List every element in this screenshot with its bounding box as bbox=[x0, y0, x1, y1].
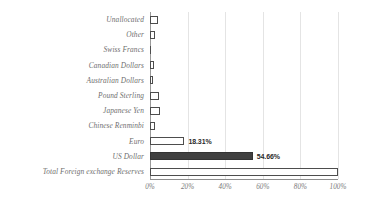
x-tick-label: 60% bbox=[256, 183, 269, 191]
horizontal-bar-chart: UnallocatedOtherSwiss FrancsCanadian Dol… bbox=[0, 0, 365, 222]
category-label: Other bbox=[0, 30, 144, 39]
bar bbox=[150, 92, 159, 100]
bar bbox=[150, 137, 184, 145]
bar-row: Pound Sterling bbox=[0, 88, 365, 103]
bar-container bbox=[150, 164, 338, 179]
bar-container: 54.66% bbox=[150, 149, 280, 164]
category-label: US Dollar bbox=[0, 152, 144, 161]
bar-container bbox=[150, 58, 154, 73]
bar-container: 18.31% bbox=[150, 134, 212, 149]
bar-row: Japanese Yen bbox=[0, 103, 365, 118]
bar-row: US Dollar54.66% bbox=[0, 149, 365, 164]
bar-container bbox=[150, 118, 155, 133]
x-tick-label: 80% bbox=[294, 183, 307, 191]
bar-row: Unallocated bbox=[0, 12, 365, 27]
x-tick-label: 0% bbox=[145, 183, 155, 191]
bar-container bbox=[150, 27, 155, 42]
bar-value-label: 18.31% bbox=[188, 138, 211, 145]
bar-container bbox=[150, 73, 153, 88]
category-label: Swiss Francs bbox=[0, 45, 144, 54]
bar-row: Other bbox=[0, 27, 365, 42]
category-label: Australian Dollars bbox=[0, 76, 144, 85]
category-label: Unallocated bbox=[0, 15, 144, 24]
bar-container bbox=[150, 12, 158, 27]
bar-container bbox=[150, 88, 159, 103]
bar-container bbox=[150, 103, 160, 118]
category-label: Chinese Renminbi bbox=[0, 121, 144, 130]
bar-row: Swiss Francs bbox=[0, 42, 365, 57]
bar bbox=[150, 46, 151, 54]
category-label: Pound Sterling bbox=[0, 91, 144, 100]
bar-row: Total Foreign exchange Reserves bbox=[0, 164, 365, 179]
bar-rows: UnallocatedOtherSwiss FrancsCanadian Dol… bbox=[0, 0, 365, 179]
bar bbox=[150, 152, 253, 160]
category-label: Canadian Dollars bbox=[0, 61, 144, 70]
bar bbox=[150, 168, 338, 176]
bar-row: Chinese Renminbi bbox=[0, 118, 365, 133]
bar bbox=[150, 31, 155, 39]
bar-value-label: 54.66% bbox=[257, 153, 280, 160]
x-tick-label: 40% bbox=[219, 183, 232, 191]
bar-row: Euro18.31% bbox=[0, 134, 365, 149]
x-tick-label: 100% bbox=[330, 183, 347, 191]
bar-row: Australian Dollars bbox=[0, 73, 365, 88]
category-label: Japanese Yen bbox=[0, 106, 144, 115]
bar-row: Canadian Dollars bbox=[0, 58, 365, 73]
bar bbox=[150, 61, 154, 69]
bar bbox=[150, 122, 155, 130]
x-axis-tick-labels: 0%20%40%60%80%100% bbox=[150, 183, 338, 197]
bar bbox=[150, 16, 158, 24]
x-tick-label: 20% bbox=[181, 183, 194, 191]
bar bbox=[150, 76, 153, 84]
bar bbox=[150, 107, 160, 115]
category-label: Total Foreign exchange Reserves bbox=[0, 167, 144, 176]
bar-container bbox=[150, 42, 151, 57]
category-label: Euro bbox=[0, 137, 144, 146]
